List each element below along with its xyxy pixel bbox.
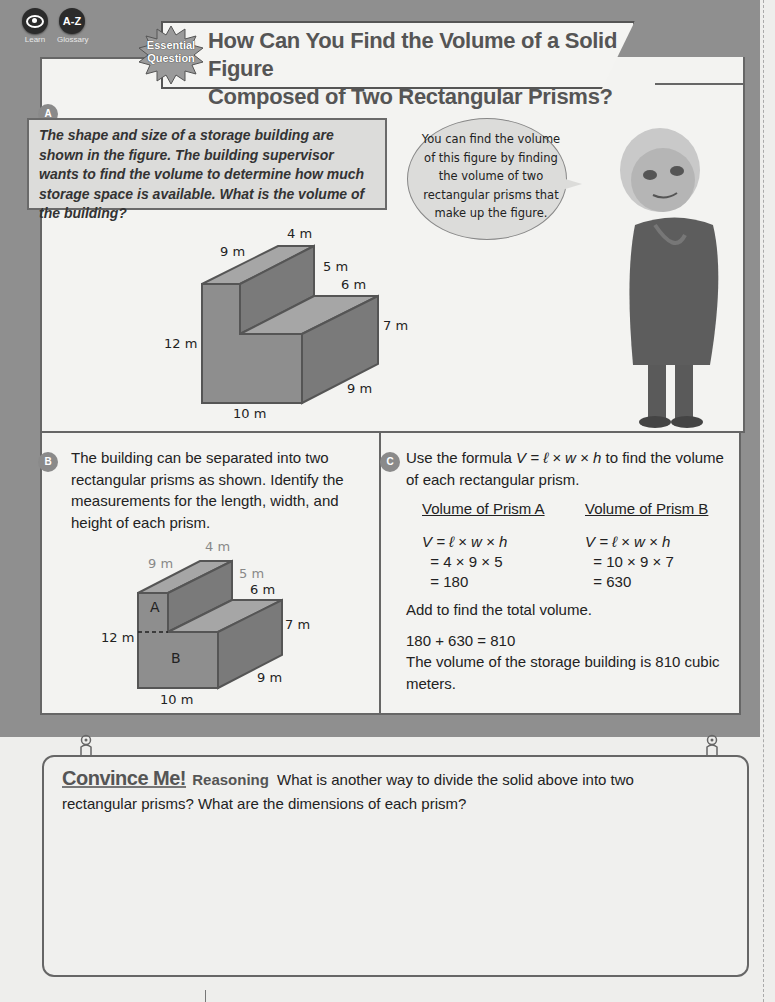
label-base-depth: 9 m bbox=[347, 381, 372, 396]
essential-question-badge: Essential Question bbox=[138, 26, 204, 84]
label-b-step-height: 5 m bbox=[239, 566, 264, 581]
learn-label: Learn bbox=[20, 35, 50, 44]
add-instruction: Add to find the total volume. bbox=[406, 599, 592, 620]
label-base-length: 10 m bbox=[233, 406, 266, 421]
formula: V = ℓ × w × h bbox=[516, 449, 601, 466]
glossary-az-icon: A-Z bbox=[59, 8, 85, 34]
section-b-text: The building can be separated into two r… bbox=[71, 447, 371, 533]
label-b-step-width: 6 m bbox=[250, 582, 275, 597]
glossary-button[interactable]: A-Z Glossary bbox=[57, 8, 87, 44]
reasoning-tag: Reasoning bbox=[192, 771, 269, 788]
eye-icon bbox=[22, 8, 48, 34]
total-equation: 180 + 630 = 810 bbox=[406, 630, 515, 651]
page-tick-mark bbox=[205, 990, 206, 1002]
badge-line-1: Essential bbox=[138, 39, 204, 52]
prism-b-heading: Volume of Prism B bbox=[585, 499, 708, 519]
label-step-height: 5 m bbox=[323, 259, 348, 274]
label-b-top-width: 4 m bbox=[205, 539, 230, 554]
convince-me-title: Convince Me! bbox=[62, 767, 186, 789]
section-c-badge: C bbox=[380, 452, 400, 472]
glossary-label: Glossary bbox=[57, 35, 87, 44]
prism-a-heading: Volume of Prism A bbox=[422, 499, 545, 519]
prism-b-calculation: Volume of Prism B V = ℓ × w × h = 10 × 9… bbox=[585, 499, 708, 592]
speech-text: You can find the volume of this figure b… bbox=[417, 130, 565, 223]
label-b-front-height: 12 m bbox=[101, 630, 134, 645]
section-divider bbox=[379, 431, 381, 715]
character-illustration bbox=[615, 115, 735, 435]
learn-button[interactable]: Learn bbox=[20, 8, 50, 44]
label-front-height: 12 m bbox=[164, 336, 197, 351]
conclusion: The volume of the storage building is 81… bbox=[406, 651, 736, 694]
hanger-icon bbox=[79, 734, 93, 756]
label-top-depth: 9 m bbox=[220, 244, 245, 259]
section-c-intro: Use the formula V = ℓ × w × h to find th… bbox=[406, 447, 736, 490]
speech-bubble: You can find the volume of this figure b… bbox=[407, 118, 582, 242]
prism-a-calculation: Volume of Prism A V = ℓ × w × h = 4 × 9 … bbox=[422, 499, 545, 592]
page-edge-dashline bbox=[763, 0, 764, 1002]
page-title: How Can You Find the Volume of a Solid F… bbox=[208, 27, 648, 111]
label-right-height: 7 m bbox=[383, 318, 408, 333]
label-b-right-height: 7 m bbox=[285, 617, 310, 632]
label-prism-a: A bbox=[150, 599, 160, 615]
label-b-base-length: 10 m bbox=[160, 692, 193, 707]
section-b-badge: B bbox=[38, 452, 58, 472]
convince-me-prompt: Convince Me! Reasoning What is another w… bbox=[62, 766, 712, 816]
label-b-top-depth: 9 m bbox=[148, 556, 173, 571]
title-line-2: Composed of Two Rectangular Prisms? bbox=[208, 83, 648, 111]
hanger-icon bbox=[705, 734, 719, 756]
badge-line-2: Question bbox=[138, 52, 204, 65]
title-line-1: How Can You Find the Volume of a Solid F… bbox=[208, 27, 648, 83]
label-top-width: 4 m bbox=[287, 226, 312, 241]
label-b-base-depth: 9 m bbox=[257, 670, 282, 685]
label-step-width: 6 m bbox=[341, 277, 366, 292]
problem-statement: The shape and size of a storage building… bbox=[27, 118, 387, 210]
label-prism-b: B bbox=[171, 650, 181, 666]
